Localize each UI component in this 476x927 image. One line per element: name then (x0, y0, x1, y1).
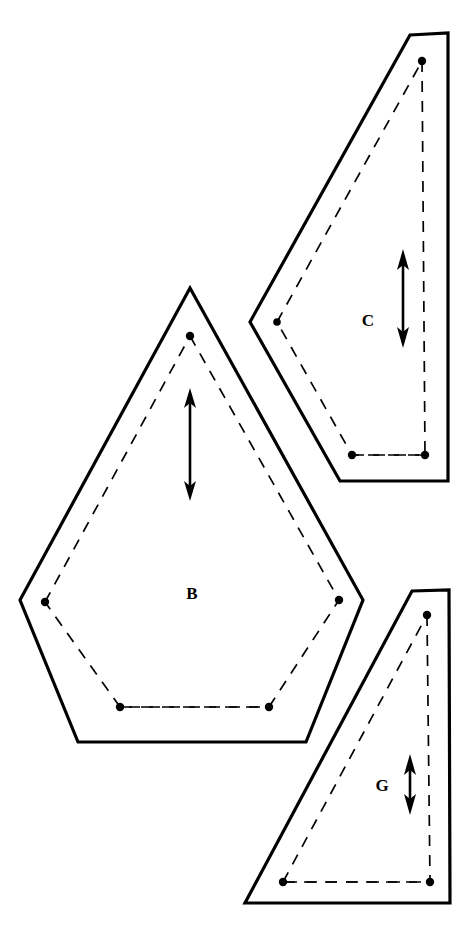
seam-line-b-closing (45, 336, 190, 602)
notch-dot-g-bottom-left (279, 878, 287, 886)
pattern-sheet: B C (0, 0, 476, 927)
notch-dot-b-right (335, 596, 343, 604)
pattern-drawing-canvas: B C (0, 0, 476, 927)
cut-line-b[interactable] (20, 288, 363, 742)
seam-line-b (45, 336, 339, 707)
notch-dot-b-left (41, 598, 49, 606)
grainline-arrow-b (184, 388, 196, 501)
grainline-arrow-g (404, 754, 416, 815)
notch-dot-b-bottom-left (116, 703, 124, 711)
notch-dot-c-left (273, 318, 281, 326)
notch-dot-g-top (423, 611, 431, 619)
piece-label-c: C (362, 311, 374, 330)
grainline-arrow-c (397, 249, 409, 348)
notch-dot-c-bottom-left (348, 451, 356, 459)
notch-dot-b-bottom-right (265, 703, 273, 711)
seam-line-g-closing (283, 615, 427, 882)
notch-dot-b-top (186, 332, 194, 340)
pattern-piece-c[interactable]: C (250, 33, 448, 481)
notch-dot-g-bottom-right (426, 878, 434, 886)
piece-label-g: G (375, 776, 388, 795)
notch-dot-c-bottom-right (421, 451, 429, 459)
notch-dot-c-top (418, 57, 426, 65)
seam-line-c-closing (277, 61, 422, 322)
piece-label-b: B (186, 584, 197, 603)
pattern-piece-b[interactable]: B (20, 288, 363, 742)
cut-line-c[interactable] (250, 33, 448, 481)
